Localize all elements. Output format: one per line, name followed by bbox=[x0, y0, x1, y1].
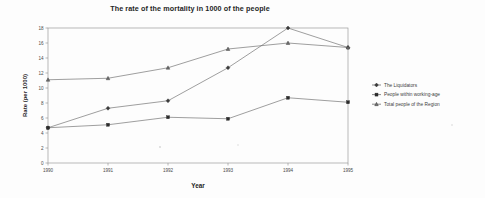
x-tick-label: 1993 bbox=[223, 168, 234, 173]
x-tick-label: 1995 bbox=[343, 168, 354, 173]
plot-border bbox=[48, 28, 348, 163]
scan-speck bbox=[237, 144, 238, 145]
x-tick-label: 1990 bbox=[43, 168, 54, 173]
chart-svg: 024681012141618 199019911992199319941995… bbox=[0, 0, 485, 198]
data-point-marker bbox=[287, 96, 290, 99]
x-tick-label: 1991 bbox=[103, 168, 114, 173]
chart-legend: The LiquidatorsPeople within working-age… bbox=[372, 83, 440, 107]
y-tick-label: 6 bbox=[41, 116, 44, 121]
legend-label: The Liquidators bbox=[384, 83, 418, 88]
data-point-marker bbox=[167, 116, 170, 119]
y-axis-label: Rate (per 1000) bbox=[22, 74, 28, 117]
series-line bbox=[48, 43, 348, 80]
y-tick-label: 0 bbox=[41, 161, 44, 166]
y-tick-label: 4 bbox=[41, 131, 44, 136]
plot-area: 024681012141618 199019911992199319941995… bbox=[0, 0, 485, 198]
x-axis-label: Year bbox=[191, 182, 205, 189]
y-tick-label: 14 bbox=[38, 56, 44, 61]
scan-artifacts bbox=[159, 124, 453, 148]
data-point-marker bbox=[226, 66, 230, 70]
chart-screenshot: The rate of the mortality in 1000 of the… bbox=[0, 0, 485, 198]
data-point-marker bbox=[286, 26, 290, 30]
y-tick-label: 8 bbox=[41, 101, 44, 106]
scan-speck bbox=[451, 124, 453, 126]
data-point-marker bbox=[166, 99, 170, 103]
legend-label: People within working-age bbox=[384, 92, 440, 97]
data-point-marker bbox=[227, 117, 230, 120]
data-series-group bbox=[46, 26, 350, 130]
data-point-marker bbox=[107, 123, 110, 126]
x-axis-ticks: 199019911992199319941995 bbox=[43, 163, 354, 173]
data-point-marker bbox=[375, 83, 379, 87]
y-tick-label: 18 bbox=[38, 26, 44, 31]
x-tick-label: 1994 bbox=[283, 168, 294, 173]
data-point-marker bbox=[106, 106, 110, 110]
series-line bbox=[48, 28, 348, 128]
data-point-marker bbox=[375, 93, 378, 96]
y-tick-label: 12 bbox=[38, 71, 44, 76]
data-point-marker bbox=[47, 126, 50, 129]
legend-label: Total people of the Region bbox=[384, 102, 440, 107]
plot-frame bbox=[48, 28, 348, 163]
scan-speck bbox=[159, 146, 161, 148]
series-line bbox=[48, 98, 348, 128]
y-axis-ticks: 024681012141618 bbox=[38, 26, 48, 166]
y-tick-label: 16 bbox=[38, 41, 44, 46]
y-tick-label: 10 bbox=[38, 86, 44, 91]
y-tick-label: 2 bbox=[41, 146, 44, 151]
x-tick-label: 1992 bbox=[163, 168, 174, 173]
data-point-marker bbox=[347, 101, 350, 104]
